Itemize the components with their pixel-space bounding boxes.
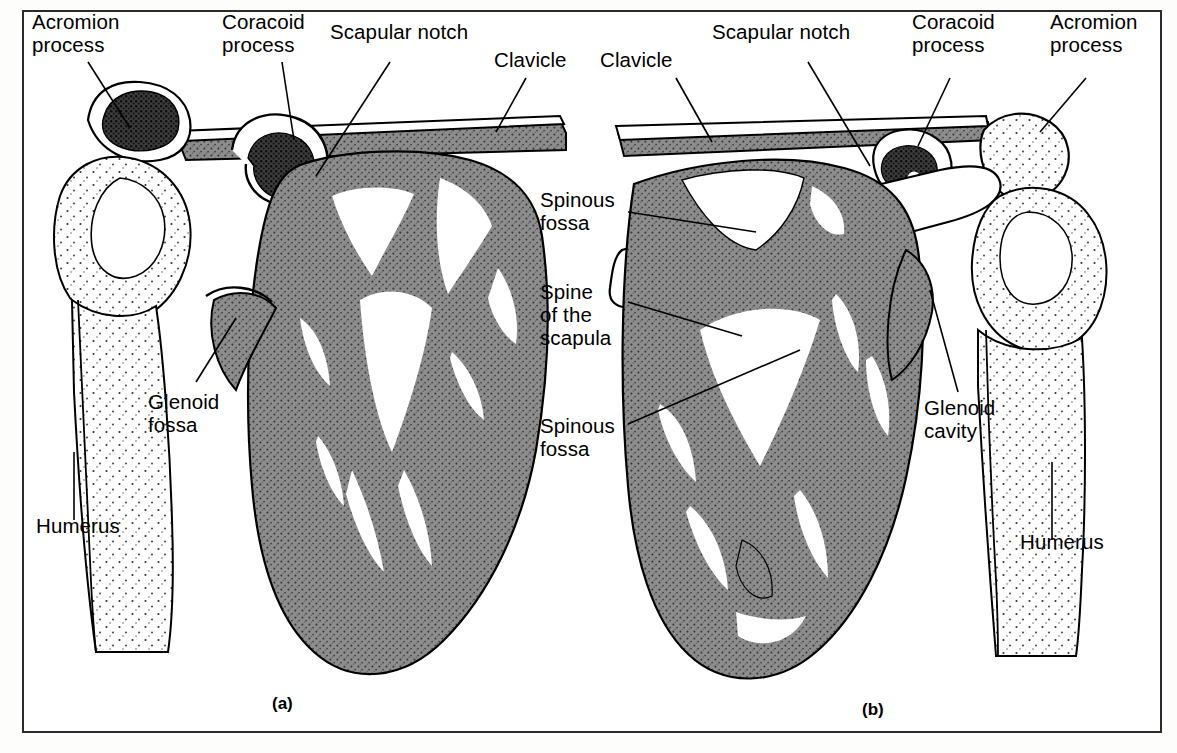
label-acromion-process-left: Acromion process [32, 10, 119, 56]
figure-frame [22, 10, 1162, 733]
label-spinous-fossa-upper: Spinous fossa [540, 188, 615, 234]
label-glenoid-fossa-left: Glenoid fossa [148, 390, 219, 436]
label-clavicle-left: Clavicle [494, 48, 567, 71]
caption-panel-a: (a) [272, 694, 293, 714]
label-coracoid-process-right: Coracoid process [912, 10, 995, 56]
label-acromion-process-right: Acromion process [1050, 10, 1137, 56]
label-coracoid-process-left: Coracoid process [222, 10, 305, 56]
label-humerus-right: Humerus [1020, 530, 1104, 553]
caption-panel-b: (b) [862, 700, 884, 720]
label-spine-of-the-scapula: Spine of the scapula [540, 280, 611, 349]
label-scapular-notch-left: Scapular notch [330, 20, 468, 43]
label-glenoid-cavity-right: Glenoid cavity [924, 396, 995, 442]
figure-page: Acromion process Coracoid process Scapul… [0, 0, 1177, 753]
label-humerus-left: Humerus [36, 514, 120, 537]
label-scapular-notch-right: Scapular notch [712, 20, 850, 43]
label-spinous-fossa-lower: Spinous fossa [540, 414, 615, 460]
label-clavicle-right: Clavicle [600, 48, 673, 71]
